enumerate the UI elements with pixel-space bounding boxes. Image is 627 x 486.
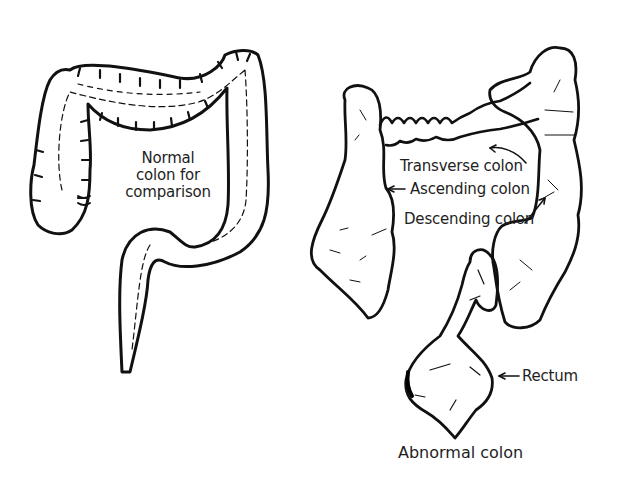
transverse-colon-label: Transverse colon [400,158,523,175]
ascending-colon-label: Ascending colon [410,181,530,198]
normal-colon-label-line-2: colon for [118,167,218,184]
descending-colon-label: Descending colon [404,211,534,228]
rectum-label: Rectum [522,368,578,385]
normal-colon-drawing [31,50,269,372]
normal-colon-label-line-1: Normal [118,150,218,167]
colon-illustration [0,0,627,486]
normal-colon-label-line-3: comparison [118,184,218,201]
normal-colon-label: Normal colon for comparison [118,150,218,201]
abnormal-colon-caption: Abnormal colon [398,443,523,462]
